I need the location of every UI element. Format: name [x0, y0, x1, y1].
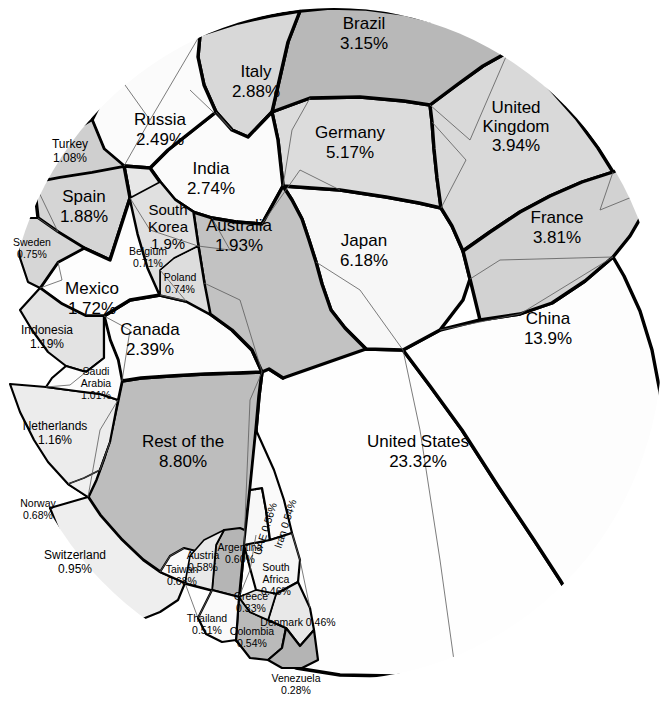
- cell-name: Rest of the: [142, 433, 224, 452]
- cell-label-france: France3.81%: [531, 209, 584, 247]
- cell-label-mexico: Mexico1.72%: [65, 280, 119, 318]
- cell-value: 0.95%: [58, 562, 92, 576]
- cell-value: 1.72%: [68, 299, 116, 318]
- cell-value: 13.9%: [524, 329, 572, 348]
- cell-name: Korea: [148, 218, 189, 235]
- cell-name: Saudi: [83, 365, 110, 377]
- cell-name: Sweden: [13, 236, 51, 248]
- cell-name: China: [526, 310, 571, 329]
- voronoi-treemap-chart: United States23.32%China13.9%Rest of the…: [0, 0, 668, 723]
- cell-label-greece: Greece0.33%: [234, 590, 269, 614]
- cell-name: Australia: [206, 217, 273, 236]
- cell-name: Poland: [164, 271, 197, 283]
- cell-value: 0.74%: [165, 283, 195, 295]
- cell-name: Mexico: [65, 280, 119, 299]
- cell-label-brazil: Brazil3.15%: [340, 15, 388, 53]
- cell-name: Belgium: [129, 245, 167, 257]
- cell-value: 1.01%: [81, 389, 111, 401]
- cell-name: Thailand: [187, 612, 227, 624]
- cell-value: 1.16%: [38, 433, 72, 447]
- cell-name: Greece: [234, 590, 269, 602]
- cell-value: 0.28%: [281, 684, 311, 696]
- cell-name: South: [148, 201, 187, 218]
- cell-label-norway: Norway0.68%: [20, 497, 56, 521]
- cell-value: 8.80%: [159, 452, 207, 471]
- cell-name: Germany: [315, 124, 385, 143]
- cell-value: 3.81%: [533, 228, 581, 247]
- cell-value: 3.15%: [340, 34, 388, 53]
- cell-value: 23.32%: [389, 452, 447, 471]
- cell-value: 0.51%: [192, 624, 222, 636]
- cell-name: Brazil: [343, 15, 386, 34]
- cell-name: Russia: [134, 111, 187, 130]
- cell-name: Indonesia: [21, 323, 73, 337]
- cell-value: 0.68%: [167, 575, 197, 587]
- cell-label-turkey: Turkey1.08%: [52, 137, 88, 164]
- cell-name: Netherlands: [23, 419, 88, 433]
- cell-label-belgium: Belgium0.71%: [129, 245, 167, 269]
- cell-label-sweden: Sweden0.75%: [13, 236, 51, 260]
- cell-value: 1.93%: [215, 236, 263, 255]
- cell-name: Venezuela: [271, 672, 320, 684]
- cell-label-canada: Canada2.39%: [120, 321, 180, 359]
- cell-label-austria: Austria0.58%: [187, 549, 220, 573]
- voronoi-svg: United States23.32%China13.9%Rest of the…: [0, 0, 668, 723]
- cell-value: 0.60%: [225, 553, 255, 565]
- cell-label-russia: Russia2.49%: [134, 111, 187, 149]
- cell-label-denmark: Denmark 0.46%: [260, 616, 335, 628]
- cell-name: Spain: [62, 188, 105, 207]
- cell-name: Africa: [263, 573, 290, 585]
- cell-label-australia: Australia1.93%: [206, 217, 273, 255]
- cell-name: Italy: [240, 63, 272, 82]
- cell-value: 1.08%: [53, 151, 87, 165]
- cell-label-united-kingdom: UnitedKingdom3.94%: [482, 98, 549, 155]
- cell-label-poland: Poland0.74%: [164, 271, 197, 295]
- cell-value: 3.94%: [492, 137, 540, 156]
- cell-name: Austria: [187, 549, 220, 561]
- cell-label-china: China13.9%: [524, 310, 572, 348]
- cell-name: France: [531, 209, 584, 228]
- cell-value: 0.68%: [23, 509, 53, 521]
- cell-name: Norway: [20, 497, 56, 509]
- cell-name: Canada: [120, 321, 180, 340]
- cell-name: Arabia: [81, 377, 112, 389]
- cell-value: 2.88%: [232, 82, 280, 101]
- cell-label-spain: Spain1.88%: [60, 188, 108, 226]
- cell-label-saudi-arabia: SaudiArabia1.01%: [81, 365, 112, 401]
- cell-name: Switzerland: [44, 548, 106, 562]
- cell-label-india: India2.74%: [187, 160, 235, 198]
- cell-name: Kingdom: [482, 117, 549, 136]
- cell-name: United: [491, 98, 540, 117]
- cell-value: 5.17%: [326, 143, 374, 162]
- cell-name: India: [193, 160, 230, 179]
- cell-label-japan: Japan6.18%: [340, 232, 388, 270]
- cell-name: South: [262, 561, 290, 573]
- cell-value: 0.75%: [17, 248, 47, 260]
- cell-value: 2.49%: [136, 130, 184, 149]
- cell-value: 0.33%: [236, 602, 266, 614]
- cell-name: Turkey: [52, 137, 88, 151]
- cell-label-venezuela: Venezuela0.28%: [271, 672, 320, 696]
- cell-value: 1.88%: [60, 207, 108, 226]
- cell-label-thailand: Thailand0.51%: [187, 612, 227, 636]
- cell-value: 0.54%: [237, 637, 267, 649]
- cell-name: Japan: [341, 232, 387, 251]
- cell-value: 2.39%: [126, 340, 174, 359]
- cell-value: 6.18%: [340, 251, 388, 270]
- cell-value: 0.71%: [133, 257, 163, 269]
- cell-value: 0.58%: [188, 561, 218, 573]
- cell-value: 2.74%: [187, 179, 235, 198]
- cell-value: 1.19%: [30, 337, 64, 351]
- cell-name: United States: [367, 433, 469, 452]
- cell-name: Denmark 0.46%: [260, 616, 335, 628]
